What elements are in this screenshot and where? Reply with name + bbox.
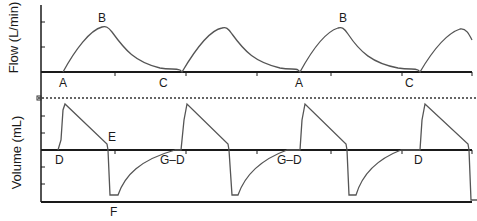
point-label-e: E <box>108 130 116 144</box>
point-label-b1: B <box>98 11 106 25</box>
point-label-gd2: G–D <box>277 153 302 167</box>
ventilator-waveform-chart <box>0 0 477 221</box>
volume-trace <box>58 104 477 200</box>
flow-axis-label: Flow (L/min) <box>6 2 21 74</box>
point-label-d1: D <box>55 153 64 167</box>
point-label-c2: C <box>405 76 414 90</box>
axes <box>41 5 472 202</box>
point-label-c1: C <box>159 76 168 90</box>
point-label-gd1: G–D <box>160 153 185 167</box>
flow-trace <box>63 27 472 72</box>
point-label-a2: A <box>295 76 303 90</box>
point-label-a1: A <box>59 76 67 90</box>
point-label-d2: D <box>414 153 423 167</box>
volume-axis-label: Volume (mL) <box>9 116 24 190</box>
point-label-f: F <box>110 205 117 219</box>
point-label-b2: B <box>339 11 347 25</box>
